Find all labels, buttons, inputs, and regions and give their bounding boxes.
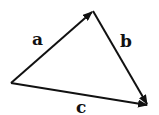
vector-diagram: a b c: [0, 0, 159, 115]
vector-a-label: a: [32, 29, 43, 49]
vector-b-arrow: [93, 11, 147, 104]
vector-b-label: b: [120, 31, 132, 51]
vector-a-arrow: [11, 12, 92, 83]
vector-c-label: c: [76, 97, 86, 115]
